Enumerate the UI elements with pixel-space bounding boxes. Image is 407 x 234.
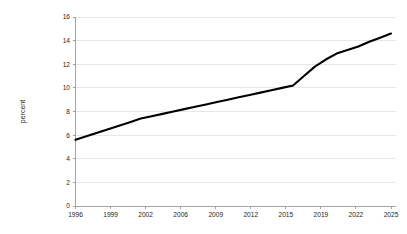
y-tick-label: 4 (66, 155, 70, 162)
x-tick-label: 2006 (173, 211, 188, 218)
x-tick-label: 2019 (314, 211, 329, 218)
line-chart: 0246810121416 19961999200220062009201220… (0, 0, 407, 234)
y-tick-label: 14 (63, 37, 71, 44)
x-tick-label: 2022 (349, 211, 364, 218)
y-tick-label: 16 (63, 13, 71, 20)
x-tick-label: 1996 (68, 211, 83, 218)
x-tick-label: 2009 (208, 211, 223, 218)
chart-canvas: 0246810121416 19961999200220062009201220… (0, 0, 407, 234)
x-tick-label: 2015 (278, 211, 293, 218)
y-tick-label: 10 (63, 84, 71, 91)
y-tick-label: 8 (66, 108, 70, 115)
x-tick-label: 2025 (384, 211, 399, 218)
x-tick-label: 2002 (138, 211, 153, 218)
y-tick-label: 2 (66, 179, 70, 186)
x-tick-label: 2012 (243, 211, 258, 218)
y-tick-label: 6 (66, 132, 70, 139)
y-tick-label: 0 (66, 202, 70, 209)
y-axis-title: percent (19, 100, 27, 123)
y-tick-label: 12 (63, 61, 71, 68)
x-tick-label: 1999 (103, 211, 118, 218)
chart-background (0, 0, 407, 234)
